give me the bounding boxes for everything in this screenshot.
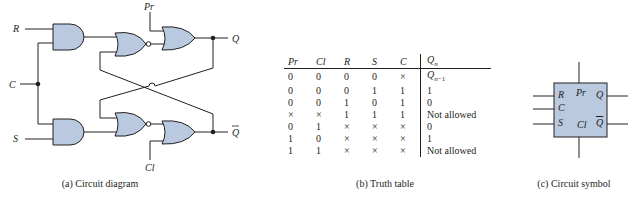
or-gate-upper	[162, 27, 195, 50]
cell: 1	[368, 109, 396, 121]
symbol-cl-label: Cl	[577, 119, 586, 130]
cell: 1	[312, 145, 340, 157]
input-pr-label: Pr	[143, 1, 154, 12]
table-row: 1 1 × × × Not allowed	[284, 145, 491, 157]
cell: 0	[284, 69, 312, 86]
table-row: × × 1 1 1 Not allowed	[284, 109, 491, 121]
caption-circuit-diagram: (a) Circuit diagram	[0, 178, 200, 189]
cell: ×	[368, 121, 396, 133]
cell: 0	[312, 85, 340, 97]
circuit-symbol-panel: R Pr Q C S Cl Q (c) Circuit symbol	[500, 0, 636, 201]
caption-circuit-symbol: (c) Circuit symbol	[512, 178, 636, 189]
nor-gate-upper	[115, 32, 146, 56]
cell: ×	[368, 145, 396, 157]
cell: 0	[340, 85, 368, 97]
circuit-symbol	[500, 0, 636, 201]
nor-gate-lower	[115, 112, 146, 136]
cell: 1	[284, 145, 312, 157]
table-row: 0 0 0 1 1 1	[284, 85, 491, 97]
input-cl-label: Cl	[145, 162, 155, 173]
symbol-qbar-label: Q	[596, 117, 603, 128]
cell: ×	[340, 133, 368, 145]
header-c: C	[396, 54, 421, 69]
or-gate-lower	[162, 121, 195, 144]
output-qbar-label: Q	[232, 127, 240, 138]
cell: 0	[312, 69, 340, 86]
cell: ×	[340, 145, 368, 157]
cell: ×	[396, 69, 421, 86]
circuit-diagram: R C S Pr Cl Q Q	[0, 0, 260, 201]
truth-table-panel: Pr Cl R S C Qn 0 0 0 0 × Qn−1 0 0 0 1 1 …	[270, 0, 500, 201]
and-gate-lower	[53, 119, 84, 145]
cell: ×	[312, 109, 340, 121]
cell: ×	[340, 121, 368, 133]
cell: 0	[368, 97, 396, 109]
cell: ×	[396, 145, 421, 157]
cell: 1	[421, 133, 492, 145]
table-header-row: Pr Cl R S C Qn	[284, 54, 491, 69]
truth-table: Pr Cl R S C Qn 0 0 0 0 × Qn−1 0 0 0 1 1 …	[284, 54, 491, 157]
cell: 0	[284, 85, 312, 97]
circuit-diagram-panel: R C S Pr Cl Q Q (a) Circuit diagram	[0, 0, 260, 201]
table-row: 0 0 1 0 1 0	[284, 97, 491, 109]
cell: ×	[396, 121, 421, 133]
cell: ×	[284, 109, 312, 121]
cell: 0	[421, 97, 492, 109]
cell: 0	[340, 69, 368, 86]
cell: 1	[340, 109, 368, 121]
cell: 1	[421, 85, 492, 97]
cell: ×	[396, 133, 421, 145]
header-qn: Qn	[421, 54, 492, 69]
cell: Not allowed	[421, 145, 492, 157]
cell: Not allowed	[421, 109, 492, 121]
cell: ×	[368, 133, 396, 145]
cell: 0	[312, 133, 340, 145]
input-s-label: S	[13, 133, 18, 144]
table-row: 0 1 × × × 0	[284, 121, 491, 133]
input-r-label: R	[12, 23, 19, 34]
input-c-label: C	[9, 79, 16, 90]
cell: 1	[340, 97, 368, 109]
header-s: S	[368, 54, 396, 69]
and-gate-upper	[53, 24, 84, 50]
caption-truth-table: (b) Truth table	[270, 178, 500, 189]
cell: 1	[368, 85, 396, 97]
cell: 0	[421, 121, 492, 133]
header-pr: Pr	[284, 54, 312, 69]
cell: 1	[284, 133, 312, 145]
cell: 0	[284, 97, 312, 109]
cell: 1	[312, 121, 340, 133]
symbol-q-label: Q	[596, 89, 603, 100]
header-r: R	[340, 54, 368, 69]
symbol-s-label: S	[558, 117, 563, 128]
output-q-label: Q	[232, 33, 240, 44]
symbol-c-label: C	[558, 102, 565, 113]
table-row: 1 0 × × × 1	[284, 133, 491, 145]
cell: 1	[396, 85, 421, 97]
cell: 0	[312, 97, 340, 109]
symbol-pr-label: Pr	[576, 87, 586, 98]
cell: 1	[396, 109, 421, 121]
cell: 0	[368, 69, 396, 86]
header-cl: Cl	[312, 54, 340, 69]
table-row: 0 0 0 0 × Qn−1	[284, 69, 491, 86]
symbol-r-label: R	[558, 89, 564, 100]
cell: 0	[284, 121, 312, 133]
cell: 1	[396, 97, 421, 109]
cell-qn-previous: Qn−1	[421, 69, 492, 86]
